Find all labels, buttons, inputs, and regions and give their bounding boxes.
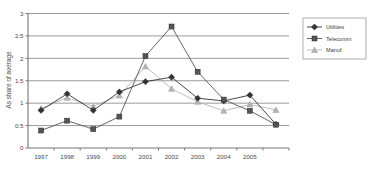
y-tick-label: 0 <box>20 144 24 151</box>
legend: UtilitiesTelecommManuf <box>303 18 366 59</box>
data-point <box>116 89 122 95</box>
series-layer <box>38 24 279 133</box>
y-tick-label: 2 <box>20 55 24 62</box>
data-point <box>195 69 200 74</box>
data-point <box>91 127 96 132</box>
legend-label: Telecomm <box>326 36 352 42</box>
series-line <box>41 66 276 110</box>
y-axis-tick-labels: 00.511.522.53 <box>15 10 24 152</box>
x-tick-label: 2004 <box>217 153 231 160</box>
x-tick-label: 2005 <box>243 153 257 160</box>
y-tick-label: 1.5 <box>15 77 24 84</box>
x-tick-label: 1999 <box>86 153 100 160</box>
data-point <box>247 108 252 113</box>
legend-marker <box>312 36 317 41</box>
data-point <box>38 107 44 113</box>
y-tick-label: 1 <box>20 99 24 106</box>
data-point <box>273 122 278 127</box>
x-tick-label: 2002 <box>165 153 179 160</box>
x-axis-tick-labels: 199719981999200020012002200320042005 <box>34 153 257 160</box>
data-point <box>247 102 253 108</box>
line-chart: 00.511.522.53 19971998199920002001200220… <box>0 0 369 174</box>
data-point <box>117 114 122 119</box>
x-tick-label: 2000 <box>112 153 126 160</box>
y-axis-title: As share of average <box>5 51 13 109</box>
y-tick-label: 0.5 <box>15 122 24 129</box>
series-utilities <box>38 74 279 127</box>
series-telecomm <box>39 24 279 133</box>
y-tick-label: 2.5 <box>15 32 24 39</box>
legend-label: Utilities <box>326 24 344 30</box>
chart-canvas: 00.511.522.53 19971998199920002001200220… <box>0 0 369 174</box>
series-manuf <box>38 63 279 113</box>
data-point <box>169 24 174 29</box>
legend-label: Manuf <box>326 47 342 53</box>
legend-item-telecomm[interactable]: Telecomm <box>307 36 352 42</box>
x-tick-label: 1997 <box>34 153 48 160</box>
data-point <box>65 118 70 123</box>
data-point <box>221 97 226 102</box>
data-point <box>142 63 148 69</box>
y-tick-label: 3 <box>20 10 24 17</box>
data-point <box>143 54 148 59</box>
x-tick-label: 1998 <box>60 153 74 160</box>
x-tick-label: 2001 <box>139 153 153 160</box>
data-point <box>64 91 70 97</box>
data-point <box>39 128 44 133</box>
x-tick-label: 2003 <box>191 153 205 160</box>
data-point <box>142 79 148 85</box>
series-line <box>41 27 276 131</box>
